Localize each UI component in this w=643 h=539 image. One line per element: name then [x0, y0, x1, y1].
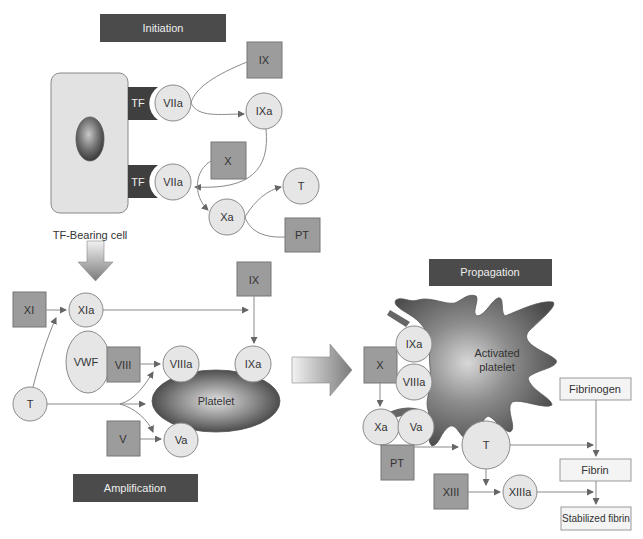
- thrombin-label-amplification: T: [27, 398, 34, 410]
- x-label-initiation: X: [224, 155, 232, 167]
- coagulation-diagram: Initiation TF TF VIIa VIIa IX IXa X Xa T…: [0, 0, 643, 539]
- vwf-label: VWF: [74, 356, 99, 368]
- tf-label-bottom: TF: [131, 176, 145, 188]
- xiii-label: XIII: [443, 486, 460, 498]
- ix-label-amplification: IX: [249, 274, 260, 286]
- connector-ix-to-viia: [191, 62, 247, 103]
- platelet-label: Platelet: [198, 395, 235, 407]
- cell-nucleus: [76, 117, 104, 161]
- initiation-title: Initiation: [143, 22, 184, 34]
- propagation-section: Propagation Activated platelet X IXa VII…: [363, 259, 631, 530]
- propagation-title: Propagation: [460, 266, 519, 278]
- right-arrow-icon: [292, 344, 352, 396]
- tf-bearing-cell-label: TF-Bearing cell: [53, 229, 128, 241]
- pt-label-propagation: PT: [390, 457, 404, 469]
- xa-label-initiation: Xa: [220, 211, 234, 223]
- arrow-x-to-xa: [197, 161, 211, 210]
- pt-label-initiation: PT: [295, 229, 309, 241]
- xiiia-label: XIIIa: [509, 486, 533, 498]
- arrow-viia-to-ixa: [191, 103, 244, 114]
- stabilized-fibrin-label: Stabilized fibrin: [562, 513, 630, 524]
- viia-label-top: VIIa: [163, 97, 183, 109]
- arrow-thrombin-to-xia: [33, 318, 56, 387]
- connector-pt-to-xa: [245, 217, 285, 237]
- fibrin-label: Fibrin: [581, 464, 609, 476]
- tf-label-top: TF: [131, 97, 145, 109]
- arrow-xa-to-thrombin: [245, 187, 281, 217]
- xa-label-propagation: Xa: [374, 421, 388, 433]
- viia-label-bottom: VIIa: [163, 176, 183, 188]
- activated-platelet-label-2: platelet: [479, 361, 514, 373]
- viiia-label-amplification: VIIIa: [170, 358, 194, 370]
- va-label-amplification: Va: [175, 434, 189, 446]
- ixa-label-initiation: IXa: [256, 105, 273, 117]
- initiation-section: Initiation TF TF VIIa VIIa IX IXa X Xa T…: [51, 14, 320, 281]
- viii-label: VIII: [115, 359, 132, 371]
- x-label-propagation: X: [376, 359, 384, 371]
- thrombin-label-propagation: T: [483, 439, 490, 451]
- xi-label: XI: [24, 304, 34, 316]
- xia-label: XIa: [78, 304, 95, 316]
- ixa-label-amplification: IXa: [245, 358, 262, 370]
- viiia-label-propagation: VIIIa: [403, 376, 427, 388]
- ixa-label-propagation: IXa: [406, 338, 423, 350]
- amplification-title: Amplification: [104, 482, 166, 494]
- amplification-section: XI XIa IX Platelet VWF VIII VIIIa IXa T …: [13, 262, 280, 502]
- va-label-propagation: Va: [410, 421, 424, 433]
- v-label: V: [119, 433, 127, 445]
- thrombin-label-initiation: T: [298, 180, 305, 192]
- activated-platelet-label-1: Activated: [474, 347, 519, 359]
- fibrinogen-label: Fibrinogen: [569, 383, 621, 395]
- ix-label-initiation: IX: [259, 54, 270, 66]
- down-arrow-icon: [78, 241, 113, 281]
